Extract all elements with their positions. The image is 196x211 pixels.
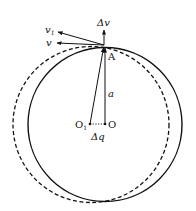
point-a-label: A	[107, 51, 116, 62]
point-o	[104, 123, 107, 126]
point-o1	[89, 123, 92, 126]
v1-label: v1	[45, 24, 54, 36]
radius-o1-line	[90, 48, 104, 124]
point-o1-label: O1	[75, 119, 87, 131]
point-o-label: O	[108, 119, 116, 130]
delta-q-label: Δq	[90, 131, 105, 142]
a-label: a	[108, 88, 114, 99]
v-label: v	[46, 37, 52, 48]
delta-v-label: Δv	[96, 17, 110, 28]
diagram-canvas: Δv v v1 A a O O1 Δq	[0, 0, 196, 211]
